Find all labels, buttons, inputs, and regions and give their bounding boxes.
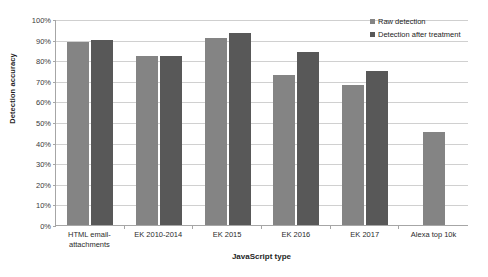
- y-tick-label: 70%: [36, 77, 51, 86]
- y-tick-label: 30%: [36, 160, 51, 169]
- legend-item[interactable]: Raw detection: [370, 17, 461, 26]
- legend-swatch-icon: [370, 32, 375, 37]
- bar-raw-detection[interactable]: [67, 42, 89, 225]
- y-tick-label: 50%: [36, 119, 51, 128]
- y-tick-label: 40%: [36, 139, 51, 148]
- x-tick-label: HTML email-attachments: [55, 230, 124, 249]
- x-tick-label-line: attachments: [56, 240, 123, 250]
- bar-group: [262, 20, 331, 225]
- y-tick-label: 0%: [40, 222, 51, 231]
- bar-raw-detection[interactable]: [205, 38, 227, 225]
- x-tick-label-line: EK 2010-2014: [125, 230, 192, 240]
- x-tick-label-line: EK 2015: [194, 230, 261, 240]
- x-tick-label-line: EK 2016: [262, 230, 329, 240]
- x-tick-mark: [124, 225, 125, 229]
- x-axis-title: JavaScript type: [55, 252, 468, 261]
- x-tick-mark: [398, 225, 399, 229]
- x-tick-label: EK 2015: [193, 230, 262, 249]
- x-tick-label-line: EK 2017: [331, 230, 398, 240]
- y-tick-label: 90%: [36, 36, 51, 45]
- bar-detection-after-treatment[interactable]: [366, 71, 388, 226]
- x-tick-mark: [261, 225, 262, 229]
- x-tick-label: Alexa top 10k: [399, 230, 468, 249]
- y-tick-label: 60%: [36, 98, 51, 107]
- bar-raw-detection[interactable]: [342, 85, 364, 225]
- bar-group: [331, 20, 400, 225]
- bar-raw-detection[interactable]: [273, 75, 295, 225]
- y-tick-label: 10%: [36, 201, 51, 210]
- x-tick-mark: [192, 225, 193, 229]
- chart-legend: Raw detectionDetection after treatment: [370, 17, 461, 39]
- bar-raw-detection[interactable]: [423, 132, 445, 225]
- bar-group: [399, 20, 468, 225]
- y-axis-title: Detection accuracy: [8, 29, 17, 149]
- bar-group: [125, 20, 194, 225]
- bar-groups: [56, 20, 468, 225]
- legend-item[interactable]: Detection after treatment: [370, 30, 461, 39]
- y-tick-label: 100%: [32, 16, 51, 25]
- plot-area: 0%10%20%30%40%50%60%70%80%90%100%: [55, 20, 468, 226]
- x-tick-label: EK 2010-2014: [124, 230, 193, 249]
- x-axis-tick-labels: HTML email-attachmentsEK 2010-2014EK 201…: [55, 230, 468, 249]
- bar-detection-after-treatment[interactable]: [160, 56, 182, 225]
- x-tick-label: EK 2017: [330, 230, 399, 249]
- bar-group: [193, 20, 262, 225]
- bar-detection-after-treatment[interactable]: [297, 52, 319, 225]
- bar-detection-after-treatment[interactable]: [229, 33, 251, 225]
- legend-swatch-icon: [370, 19, 375, 24]
- bar-chart: Detection accuracy 0%10%20%30%40%50%60%7…: [0, 0, 488, 277]
- y-tick-label: 20%: [36, 180, 51, 189]
- legend-label: Detection after treatment: [378, 30, 461, 39]
- x-tick-label: EK 2016: [261, 230, 330, 249]
- bar-detection-after-treatment[interactable]: [91, 40, 113, 225]
- y-tick-mark: [53, 226, 56, 227]
- y-tick-label: 80%: [36, 57, 51, 66]
- x-tick-label-line: HTML email-: [56, 230, 123, 240]
- x-tick-mark: [330, 225, 331, 229]
- x-tick-label-line: Alexa top 10k: [400, 230, 467, 240]
- bar-group: [56, 20, 125, 225]
- bar-raw-detection[interactable]: [136, 56, 158, 225]
- legend-label: Raw detection: [378, 17, 426, 26]
